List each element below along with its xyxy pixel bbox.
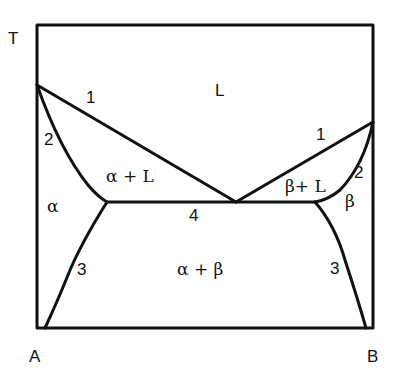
region-alpha-label: α	[47, 196, 59, 216]
liquidus-left-number: 1	[86, 88, 95, 107]
temperature-axis-label: T	[8, 29, 18, 48]
component-a-label: A	[29, 347, 41, 366]
solvus-left-number: 3	[77, 260, 86, 279]
component-b-label: B	[367, 347, 378, 366]
solvus-right-number: 3	[330, 259, 339, 278]
region-alpha-beta-label: α + β	[177, 259, 223, 279]
eutectic-line-number: 4	[189, 206, 198, 225]
solidus-left-number: 2	[44, 130, 53, 149]
region-beta-liquid-label: β+ L	[285, 176, 326, 196]
region-beta-label: β	[345, 191, 355, 211]
region-liquid-label: L	[215, 81, 224, 100]
region-alpha-liquid-label: α + L	[106, 166, 154, 186]
solvus-right-curve	[315, 202, 366, 328]
liquidus-right-number: 1	[316, 125, 325, 144]
phase-diagram: T A B L α + L β+ L α β α + β 1 1 2 2 3 3…	[0, 0, 399, 385]
solvus-left-curve	[45, 202, 107, 328]
solidus-right-number: 2	[354, 163, 363, 182]
